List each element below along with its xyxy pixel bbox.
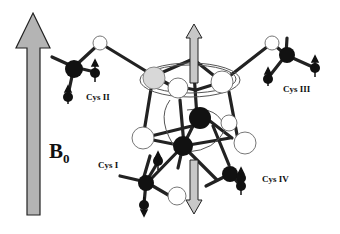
field-label-main: B	[49, 139, 63, 163]
label-cys-ii: Cys II	[86, 92, 110, 102]
label-cys-iii: Cys III	[283, 84, 311, 94]
b0-field-arrow	[16, 13, 50, 215]
label-cys-iv: Cys IV	[262, 174, 289, 184]
label-cys-i: Cys I	[98, 160, 119, 170]
field-label: B0	[49, 139, 70, 166]
field-label-subscript: 0	[63, 151, 70, 166]
spin-up-arrow	[186, 24, 202, 83]
spin-down-arrow	[186, 160, 202, 214]
molecular-diagram: Cys II Cys III Cys I Cys IV B0	[0, 0, 340, 234]
